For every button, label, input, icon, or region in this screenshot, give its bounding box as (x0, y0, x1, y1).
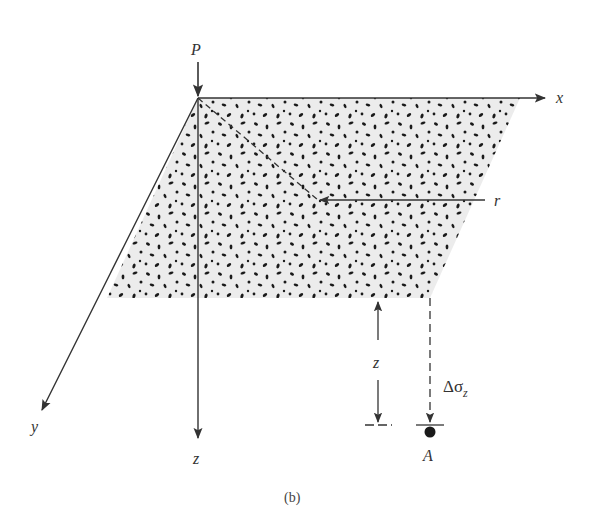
figure-caption: (b) (284, 490, 301, 506)
label-P: P (190, 41, 201, 58)
loaded-area (107, 98, 520, 298)
label-A: A (422, 447, 433, 464)
label-r: r (494, 192, 501, 209)
label-z-axis: z (192, 450, 200, 467)
label-depth-z: z (372, 354, 380, 371)
point-A (425, 427, 436, 438)
label-delta-sigma-z: Δσz (443, 377, 468, 400)
label-y: y (29, 418, 39, 436)
label-x: x (555, 89, 563, 106)
diagram-canvas: P x y z r A Δσz z (b) (0, 0, 592, 531)
